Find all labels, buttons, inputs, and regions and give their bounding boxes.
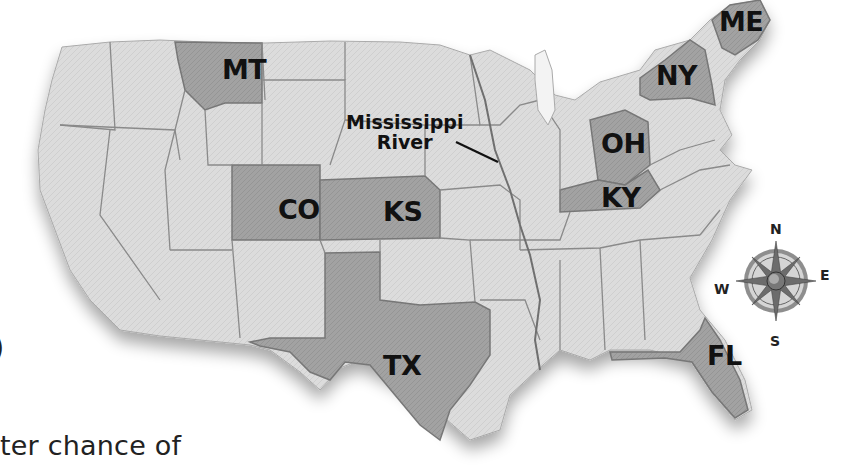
state-label-tx: TX — [383, 352, 421, 379]
state-label-mt: MT — [222, 56, 266, 83]
river-label-line2: River — [346, 132, 463, 152]
state-label-oh: OH — [601, 130, 646, 157]
state-label-fl: FL — [707, 342, 742, 369]
river-label-line1: Mississippi — [346, 112, 463, 132]
compass-rose — [736, 241, 816, 321]
compass-s: S — [770, 334, 780, 348]
compass-w: W — [714, 282, 729, 296]
river-label: Mississippi River — [346, 112, 463, 152]
body-text-fragment: ter chance of — [0, 430, 181, 461]
us-map-graphic — [0, 0, 847, 468]
state-label-ky: KY — [601, 184, 640, 211]
compass-e: E — [820, 268, 830, 282]
state-label-co: CO — [278, 196, 320, 223]
us-map: MT CO KS TX OH KY NY ME FL Mississippi R… — [0, 0, 847, 468]
compass-n: N — [770, 222, 782, 236]
edge-glyph: ) — [0, 328, 4, 366]
state-label-me: ME — [719, 8, 763, 35]
state-label-ks: KS — [383, 198, 422, 225]
state-label-ny: NY — [656, 62, 697, 89]
